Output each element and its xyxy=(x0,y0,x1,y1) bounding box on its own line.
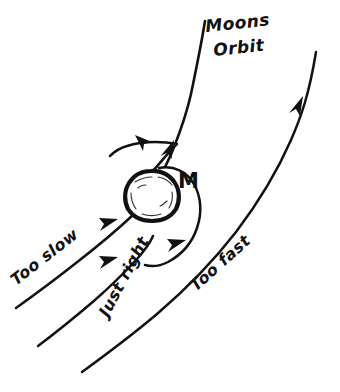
diagram-canvas: M Moons Orbit Too slow Just right Too fa… xyxy=(0,0,340,392)
central-body-label: M xyxy=(178,169,199,193)
central-planet xyxy=(125,171,179,221)
planet-outline xyxy=(125,171,179,221)
